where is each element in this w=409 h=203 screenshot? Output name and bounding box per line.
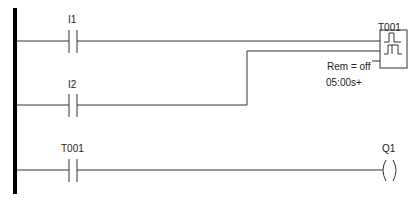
rung-1	[17, 30, 380, 53]
contact-t001-label: T001	[61, 143, 84, 155]
contact-i2-label: I2	[68, 79, 76, 91]
timer-remanence: Rem = off	[327, 61, 370, 73]
timer-label: T001	[378, 22, 401, 34]
timer-block-t001[interactable]	[372, 30, 407, 68]
rung-3	[17, 159, 396, 182]
contact-i1-label: I1	[68, 14, 76, 26]
coil-q1-label: Q1	[382, 143, 395, 155]
ladder-diagram	[0, 0, 409, 203]
power-rail	[13, 8, 17, 194]
coil-q1	[383, 160, 386, 181]
timer-time: 05:00s+	[326, 77, 362, 89]
